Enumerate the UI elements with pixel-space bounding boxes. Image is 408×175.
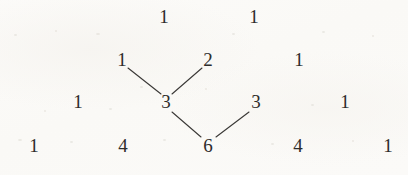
paper-speck	[232, 33, 235, 35]
paper-speck	[55, 30, 57, 32]
triangle-number-r4c4: 1	[383, 136, 393, 155]
edge-2-to-3	[172, 68, 202, 94]
triangle-number-r4c1: 4	[118, 136, 128, 155]
triangle-number-r2c0: 1	[117, 50, 127, 69]
triangle-number-r3c1: 3	[161, 92, 171, 111]
paper-speck	[18, 139, 22, 141]
paper-speck	[96, 33, 100, 35]
triangle-number-r3c3: 1	[340, 92, 350, 111]
triangle-number-r4c0: 1	[29, 136, 39, 155]
triangle-number-r1c0: 1	[159, 7, 169, 26]
paper-speck	[205, 88, 207, 90]
triangle-number-r3c2: 3	[251, 92, 261, 111]
triangle-number-r2c1: 2	[203, 50, 213, 69]
paper-speck	[109, 108, 112, 110]
paper-speck	[352, 140, 354, 142]
triangle-number-r4c3: 4	[293, 136, 303, 155]
paper-speck	[70, 141, 73, 143]
triangle-number-r1c1: 1	[249, 7, 259, 26]
paper-speck	[311, 104, 314, 106]
edge-1-to-3	[128, 68, 161, 94]
triangle-number-r4c2: 6	[203, 136, 213, 155]
triangle-number-r3c0: 1	[73, 92, 83, 111]
paper-speck	[163, 139, 166, 141]
paper-speck	[372, 35, 374, 37]
paper-speck	[44, 110, 46, 112]
paper-speck	[140, 86, 143, 88]
edge-3b-to-6	[216, 112, 249, 137]
paper-speck	[271, 143, 274, 145]
paper-speck	[322, 31, 325, 33]
triangle-number-r2c2: 1	[294, 50, 304, 69]
pascals-triangle-figure: 11121133114641	[0, 0, 408, 175]
paper-speck	[14, 34, 17, 36]
edge-3-to-6	[172, 112, 201, 137]
